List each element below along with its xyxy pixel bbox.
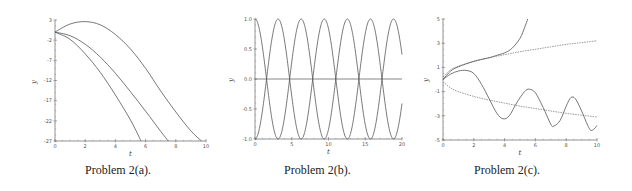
y-tick-label: -5 (435, 137, 440, 143)
x-tick-label: 10 (594, 142, 600, 148)
y-tick-label: -3 (435, 113, 440, 119)
x-tick-label: 8 (565, 142, 568, 148)
y-axis-title: y (422, 77, 430, 83)
y-tick-label: -1 (435, 88, 440, 94)
x-tick-label: 0 (441, 142, 444, 148)
series-line (443, 70, 597, 130)
series-line (443, 41, 597, 77)
x-tick-label: 6 (534, 142, 537, 148)
y-tick-label: 3 (437, 40, 440, 46)
x-tick-label: 4 (503, 142, 506, 148)
chart-panel-c: 531-1-3-50246810ty Problem 2(c). (0, 0, 632, 191)
x-tick-label: 2 (472, 142, 475, 148)
chart-c-caption: Problem 2(c). (474, 163, 540, 178)
y-tick-label: 1 (437, 64, 440, 70)
x-axis-title: t (519, 149, 522, 157)
series-line (443, 82, 597, 117)
series-line (443, 19, 528, 80)
y-tick-label: 5 (437, 16, 440, 22)
